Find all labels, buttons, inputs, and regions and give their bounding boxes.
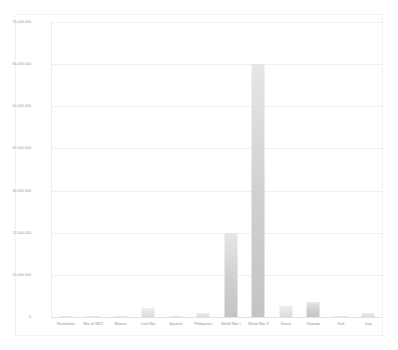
bar-slot [52,22,80,317]
x-tick-label: Revolution [52,322,80,327]
bar-slot [300,22,328,317]
bar-slot [217,22,245,317]
bar-slot [107,22,135,317]
bar-slot [135,22,163,317]
x-tick-label: Civil War [135,322,163,327]
bar-slot [245,22,273,317]
bar-slot [190,22,218,317]
x-tick-label: War of 1812 [80,322,108,327]
bar-slot [162,22,190,317]
y-tick-label: 40,000,000 [0,146,31,150]
x-tick-label: Philippines [190,322,218,327]
bars-layer [52,22,382,317]
x-tick-label: World War I [217,322,245,327]
x-tick-label: World War II [245,322,273,327]
bar-slot [272,22,300,317]
y-tick-label: 70,000,000 [0,20,31,24]
bar[interactable] [59,316,72,317]
bar[interactable] [169,316,182,317]
y-tick-label: 10,000,000 [0,273,31,277]
bar[interactable] [252,64,265,317]
x-tick-label: Mexico [107,322,135,327]
bar[interactable] [142,308,155,317]
y-tick-label: 20,000,000 [0,231,31,235]
plot-area: 70,000,00060,000,00050,000,00040,000,000… [51,22,381,318]
bar[interactable] [334,316,347,317]
x-tick-label: Iraq [355,322,383,327]
bar[interactable] [279,306,292,317]
bar[interactable] [362,313,375,317]
bar-slot [327,22,355,317]
y-tick-label: 50,000,000 [0,104,31,108]
gridline [52,317,382,318]
y-tick-label: 60,000,000 [0,62,31,66]
y-tick-label: 30,000,000 [0,189,31,193]
x-tick-label: Vietnam [300,322,328,327]
bar[interactable] [224,233,237,317]
bar-slot [355,22,383,317]
x-tick-label: Korea [272,322,300,327]
x-tick-label: Spanish [162,322,190,327]
bar[interactable] [197,313,210,317]
x-tick-label: Gulf [327,322,355,327]
bar[interactable] [307,302,320,317]
bar-slot [80,22,108,317]
bar-chart: 70,000,00060,000,00050,000,00040,000,000… [0,0,398,350]
bar[interactable] [114,316,127,317]
bar[interactable] [87,316,100,317]
y-tick-label: 0 [0,315,31,319]
